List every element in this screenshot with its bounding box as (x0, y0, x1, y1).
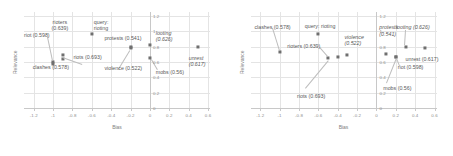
y-tick-label: 1.2 (153, 13, 159, 18)
point-label: riot (0.598) (24, 32, 50, 38)
y-axis-title: Relevance (12, 50, 18, 74)
point-label: mobs (0.56) (156, 69, 184, 75)
x-axis-title: Bias (112, 124, 122, 130)
point-label: clashes (0.578) (254, 24, 290, 30)
point-label: query: rioting (94, 19, 109, 32)
x-tick-label: -0.8 (68, 113, 76, 118)
x-tick-label: -1 (51, 113, 55, 118)
scatter-figure: -1.2-1-0.8-0.6-0.4-0.200.20.40.600.20.40… (0, 0, 453, 156)
point-label: riots (0.693) (297, 93, 325, 99)
x-tick-label: -0.4 (107, 113, 115, 118)
x-tick-label: -0.2 (353, 113, 361, 118)
y-tick-label: 0.8 (379, 44, 385, 49)
data-point (336, 56, 339, 59)
gridline-horizontal (24, 77, 210, 78)
gridline-horizontal (251, 93, 437, 94)
data-point (61, 53, 64, 56)
x-tick-mark (260, 108, 261, 111)
x-tick-mark (189, 108, 190, 111)
left-panel: -1.2-1-0.8-0.6-0.4-0.200.20.40.600.20.40… (0, 0, 227, 156)
x-tick-mark (435, 108, 436, 111)
x-tick-mark (376, 108, 377, 111)
x-tick-mark (415, 108, 416, 111)
x-tick-mark (53, 108, 54, 111)
point-label: mobs (0.56) (383, 85, 411, 91)
data-point (385, 53, 388, 56)
y-tick-label: 0 (153, 106, 156, 111)
x-tick-label: 0.4 (185, 113, 191, 118)
x-tick-label: 0.2 (393, 113, 399, 118)
y-tick-label: 0.6 (153, 59, 159, 64)
data-point (423, 47, 426, 50)
x-axis-title: Bias (339, 124, 349, 130)
y-tick-label: 0.4 (153, 75, 159, 80)
leader-line (319, 47, 328, 56)
data-point (317, 32, 320, 35)
x-tick-label: 0.2 (166, 113, 172, 118)
x-tick-mark (34, 108, 35, 111)
data-point (197, 45, 200, 48)
x-tick-label: -0.8 (295, 113, 303, 118)
y-tick-label: 0.4 (379, 75, 385, 80)
gridline-horizontal (24, 47, 210, 48)
gridline-horizontal (251, 16, 437, 17)
leader-line (305, 60, 329, 89)
data-point (404, 45, 407, 48)
x-tick-mark (338, 108, 339, 111)
point-label: rioters (0.639) (287, 43, 320, 49)
gridline-horizontal (24, 93, 210, 94)
point-label: unrest (0.617) (189, 55, 206, 68)
y-tick-label: 0 (379, 106, 382, 111)
point-label: riot (0.598) (398, 64, 424, 70)
x-tick-mark (169, 108, 170, 111)
x-tick-label: 0 (375, 113, 378, 118)
x-tick-label: -1 (278, 113, 282, 118)
point-label: violence (0.522) (344, 34, 363, 47)
x-tick-mark (299, 108, 300, 111)
x-tick-label: -0.6 (314, 113, 322, 118)
x-tick-mark (72, 108, 73, 111)
x-tick-label: -0.4 (334, 113, 342, 118)
point-label: unrest (0.617) (406, 56, 439, 62)
point-label: looting (0.626) (396, 24, 430, 30)
x-tick-label: -1.2 (256, 113, 264, 118)
gridline-horizontal (251, 77, 437, 78)
x-tick-mark (318, 108, 319, 111)
x-tick-label: -0.2 (127, 113, 135, 118)
point-label: clashes (0.578) (33, 64, 69, 70)
right-panel: -1.2-1-0.8-0.6-0.4-0.200.20.40.600.20.40… (227, 0, 453, 156)
point-label: protests (0.541) (104, 35, 141, 41)
point-label: looting (0.626) (156, 30, 173, 43)
point-label: rioters (0.639) (51, 19, 68, 32)
x-tick-mark (150, 108, 151, 111)
y-axis-title: Relevance (239, 50, 245, 74)
x-tick-label: -1.2 (30, 113, 38, 118)
x-tick-mark (111, 108, 112, 111)
data-point (278, 50, 281, 53)
x-tick-label: -0.6 (88, 113, 96, 118)
x-tick-label: 0 (149, 113, 152, 118)
x-tick-mark (357, 108, 358, 111)
x-tick-label: 0.6 (205, 113, 211, 118)
y-axis-line (376, 12, 377, 108)
data-point (90, 32, 93, 35)
x-tick-label: 0.6 (431, 113, 437, 118)
x-tick-label: 0.4 (412, 113, 418, 118)
x-tick-mark (131, 108, 132, 111)
data-point (148, 43, 151, 46)
x-axis-line (251, 108, 437, 109)
y-tick-label: 0.6 (379, 59, 385, 64)
gridline-horizontal (24, 16, 210, 17)
y-tick-label: 0.8 (153, 44, 159, 49)
point-label: query: rioting (305, 23, 336, 29)
point-label: violence (0.522) (104, 65, 142, 71)
x-tick-mark (396, 108, 397, 111)
x-tick-mark (92, 108, 93, 111)
y-tick-label: 1.2 (379, 13, 385, 18)
data-point (346, 53, 349, 56)
point-label: riots (0.693) (73, 54, 101, 60)
x-tick-mark (208, 108, 209, 111)
x-axis-line (24, 108, 210, 109)
gridline-horizontal (251, 31, 437, 32)
y-tick-label: 0.2 (153, 90, 159, 95)
